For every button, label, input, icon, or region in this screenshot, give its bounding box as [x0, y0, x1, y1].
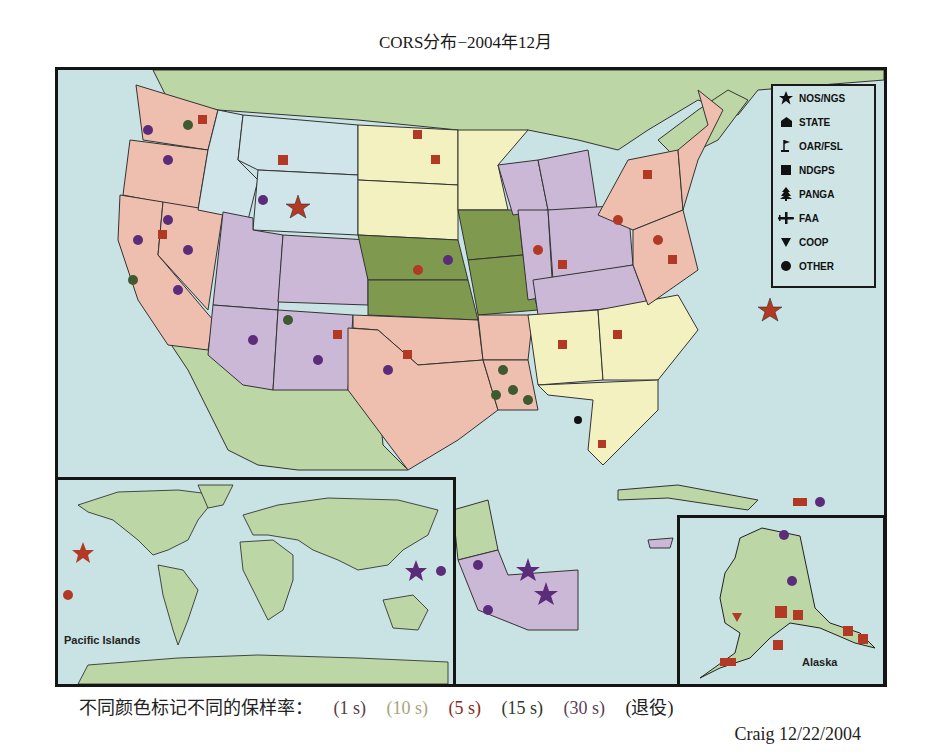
legend-item-state: STATE	[773, 112, 830, 132]
world-map	[58, 480, 453, 684]
square-icon	[781, 165, 791, 175]
legend: NOS/NGS STATE OAR/FSL NDGPS PANGA FAA CO…	[771, 84, 876, 288]
credit-line: Craig 12/22/2004	[735, 724, 862, 745]
alaska-map	[680, 518, 883, 684]
wyoming	[253, 170, 358, 235]
legend-item-faa: FAA	[773, 208, 819, 228]
rate-retired: (退役)	[626, 698, 674, 718]
arkansas	[478, 315, 533, 360]
rate-30s: (30 s)	[564, 698, 606, 718]
rate-15s: (15 s)	[502, 698, 544, 718]
sampling-rate-prefix: 不同颜色标记不同的保样率：	[79, 698, 313, 718]
legend-item-other: OTHER	[773, 256, 834, 276]
colorado	[278, 235, 368, 305]
jamaica	[648, 538, 673, 548]
airplane-icon	[777, 211, 795, 225]
legend-item-panga: PANGA	[773, 184, 834, 204]
legend-item-oar-fsl: OAR/FSL	[773, 136, 843, 156]
north-dakota	[358, 125, 458, 185]
map-frame: NOS/NGS STATE OAR/FSL NDGPS PANGA FAA CO…	[55, 67, 887, 687]
pacific-islands-label: Pacific Islands	[64, 634, 140, 646]
house-icon	[781, 117, 792, 127]
sampling-rate-legend: 不同颜色标记不同的保样率： (1 s) (10 s) (5 s) (15 s) …	[79, 693, 690, 719]
legend-item-ndgps: NDGPS	[773, 160, 835, 180]
alaska-inset: Alaska	[677, 515, 886, 687]
tree-icon	[780, 187, 792, 201]
alaska-label: Alaska	[802, 656, 837, 668]
star-icon	[779, 91, 793, 105]
michigan	[538, 150, 598, 215]
kansas	[368, 280, 478, 320]
iowa	[458, 210, 523, 260]
rate-5s: (5 s)	[449, 698, 482, 718]
florida	[538, 380, 658, 465]
triangle-down-icon	[781, 238, 791, 247]
cuba	[618, 485, 758, 510]
rate-10s: (10 s)	[387, 698, 429, 718]
rate-1s: (1 s)	[334, 698, 367, 718]
pacific-islands-inset: Pacific Islands	[55, 477, 456, 687]
legend-item-coop: COOP	[773, 232, 828, 252]
circle-icon	[781, 261, 791, 271]
flag-icon	[780, 139, 792, 153]
yucatan	[453, 500, 498, 560]
montana	[238, 115, 358, 175]
map-title: CORS分布−2004年12月	[0, 28, 931, 53]
south-dakota	[358, 180, 458, 240]
legend-item-nos-ngs: NOS/NGS	[773, 88, 845, 108]
